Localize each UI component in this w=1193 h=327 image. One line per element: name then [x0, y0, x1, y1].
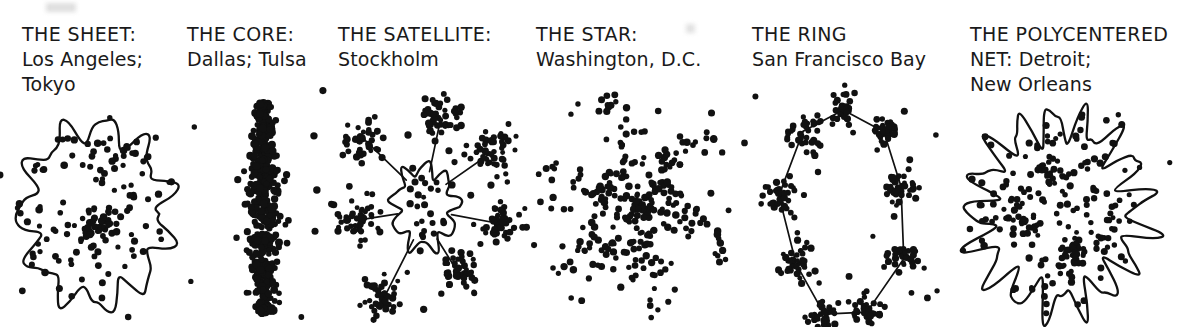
panel-caption-satellite: THE SATELLITE:Stockholm — [338, 22, 492, 72]
panel-diagram-sheet — [12, 112, 197, 320]
panel-caption-core: THE CORE:Dallas; Tulsa — [187, 22, 307, 72]
panel-type-label-ring: THE RING — [752, 22, 926, 47]
panel-diagram-polycentered-net — [962, 110, 1167, 315]
panel-examples-label-satellite: Stockholm — [338, 47, 492, 72]
panel-examples-label-polycentered-net: NET: Detroit; New Orleans — [970, 47, 1168, 97]
panel-diagram-ring — [758, 92, 933, 327]
panel-type-label-core: THE CORE: — [187, 22, 307, 47]
panel-type-label-star: THE STAR: — [536, 22, 701, 47]
panel-caption-sheet: THE SHEET:Los Angeles; Tokyo — [22, 22, 143, 97]
panel-diagram-satellite — [340, 96, 520, 318]
panel-diagram-core — [210, 96, 328, 322]
panel-caption-star: THE STAR:Washington, D.C. — [536, 22, 701, 72]
panel-examples-label-ring: San Francisco Bay — [752, 47, 926, 72]
panel-diagram-star — [552, 112, 717, 302]
panel-caption-polycentered-net: THE POLYCENTEREDNET: Detroit; New Orlean… — [970, 22, 1168, 97]
figure-canvas: THE SHEET:Los Angeles; TokyoTHE CORE:Dal… — [0, 0, 1193, 327]
panel-examples-label-core: Dallas; Tulsa — [187, 47, 307, 72]
panel-examples-label-star: Washington, D.C. — [536, 47, 701, 72]
panel-examples-label-sheet: Los Angeles; Tokyo — [22, 47, 143, 97]
panel-type-label-sheet: THE SHEET: — [22, 22, 143, 47]
panel-type-label-polycentered-net: THE POLYCENTERED — [970, 22, 1168, 47]
panel-type-label-satellite: THE SATELLITE: — [338, 22, 492, 47]
panel-caption-ring: THE RINGSan Francisco Bay — [752, 22, 926, 72]
scan-artifact-smudge — [46, 3, 76, 12]
